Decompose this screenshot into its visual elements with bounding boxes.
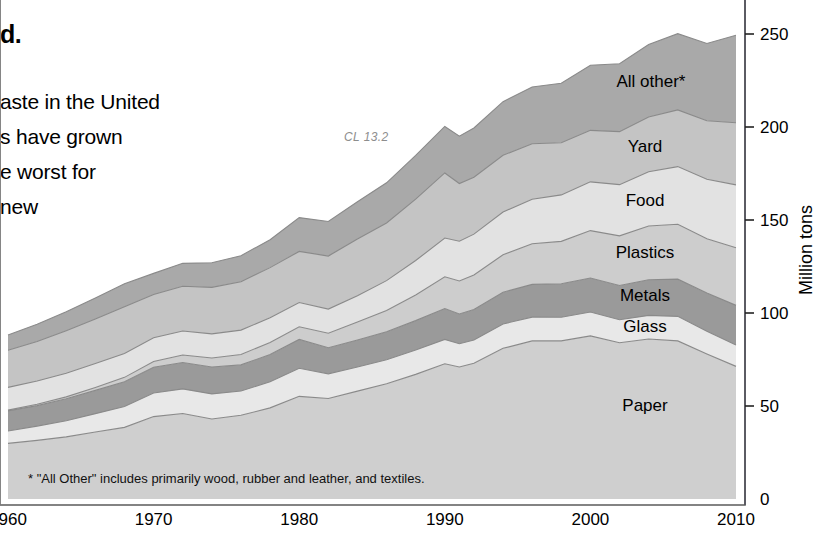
- series-label-plastics: Plastics: [616, 243, 675, 262]
- series-label-paper: Paper: [622, 396, 668, 415]
- chart-footnote: * "All Other" includes primarily wood, r…: [28, 471, 425, 486]
- y-tick-label-200: 200: [760, 118, 788, 137]
- x-tick-label-2010: 2010: [717, 510, 755, 529]
- chart-svg: 050100150200250 196019701980199020002010…: [0, 0, 829, 552]
- chart-area-bands: [8, 34, 736, 499]
- x-tick-label-1980: 1980: [280, 510, 318, 529]
- series-label-metals: Metals: [620, 286, 670, 305]
- x-tick-label-2000: 2000: [571, 510, 609, 529]
- stacked-area-chart: 050100150200250 196019701980199020002010…: [0, 0, 829, 552]
- y-axis: 050100150200250: [745, 0, 788, 509]
- series-label-all-other: All other*: [617, 72, 686, 91]
- y-tick-label-250: 250: [760, 25, 788, 44]
- x-tick-label-1970: 1970: [135, 510, 173, 529]
- series-label-glass: Glass: [623, 317, 666, 336]
- x-tick-label-1990: 1990: [426, 510, 464, 529]
- y-axis-title: Million tons: [796, 205, 816, 295]
- y-tick-label-100: 100: [760, 304, 788, 323]
- y-tick-label-50: 50: [760, 397, 779, 416]
- y-tick-label-0: 0: [760, 490, 769, 509]
- x-tick-label-1960: 1960: [0, 510, 27, 529]
- series-label-yard: Yard: [628, 137, 663, 156]
- series-label-food: Food: [626, 191, 665, 210]
- y-tick-label-150: 150: [760, 211, 788, 230]
- x-axis: 196019701980199020002010: [0, 510, 755, 529]
